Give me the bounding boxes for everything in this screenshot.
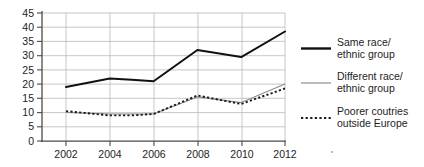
- y-tick-marks: [37, 13, 42, 141]
- legend-item-same-race[interactable]: Same race/ ethnic group: [301, 36, 395, 60]
- x-axis-label-2012: 2012: [273, 148, 297, 160]
- y-axis-label-25: 25: [22, 64, 34, 76]
- series-line-poorer-countries: [66, 88, 285, 115]
- x-axis-label-2006: 2006: [142, 148, 166, 160]
- legend-item-poorer-countries[interactable]: Poorer coutries outside Europe: [301, 105, 408, 129]
- series-line-different-race: [66, 84, 285, 114]
- y-axis-label-45: 45: [22, 7, 34, 19]
- x-axis-label-2002: 2002: [54, 148, 78, 160]
- y-axis-label-30: 30: [22, 49, 34, 61]
- y-axis-label-35: 35: [22, 35, 34, 47]
- legend: Same race/ ethnic group Different race/ …: [301, 36, 408, 130]
- chart-canvas: 45 40 35 30 25 20 15 10 5 0 2002 2004 20…: [0, 0, 424, 167]
- y-axis-label-5: 5: [28, 120, 34, 132]
- line-chart-figure: 45 40 35 30 25 20 15 10 5 0 2002 2004 20…: [0, 0, 424, 167]
- series-line-same-race: [66, 31, 285, 86]
- scan-speck: [331, 151, 333, 153]
- y-axis-label-40: 40: [22, 21, 34, 33]
- legend-label-poorer-countries-line2: outside Europe: [337, 117, 408, 129]
- vertical-gridlines: [66, 13, 285, 141]
- y-axis-label-15: 15: [22, 92, 34, 104]
- legend-label-same-race-line1: Same race/: [337, 36, 391, 48]
- x-axis-label-2004: 2004: [98, 148, 122, 160]
- legend-item-different-race[interactable]: Different race/ ethnic group: [301, 70, 403, 94]
- legend-label-different-race-line2: ethnic group: [337, 82, 395, 94]
- y-axis-label-10: 10: [22, 106, 34, 118]
- legend-label-poorer-countries-line1: Poorer coutries: [337, 105, 408, 117]
- y-axis-labels: 45 40 35 30 25 20 15 10 5 0: [22, 7, 34, 147]
- x-axis-label-2008: 2008: [186, 148, 210, 160]
- x-axis-labels: 2002 2004 2006 2008 2010 2012: [54, 148, 297, 160]
- y-axis-label-0: 0: [28, 135, 34, 147]
- y-axis-label-20: 20: [22, 78, 34, 90]
- legend-label-same-race-line2: ethnic group: [337, 48, 395, 60]
- x-axis-label-2010: 2010: [230, 148, 254, 160]
- legend-label-different-race-line1: Different race/: [337, 70, 403, 82]
